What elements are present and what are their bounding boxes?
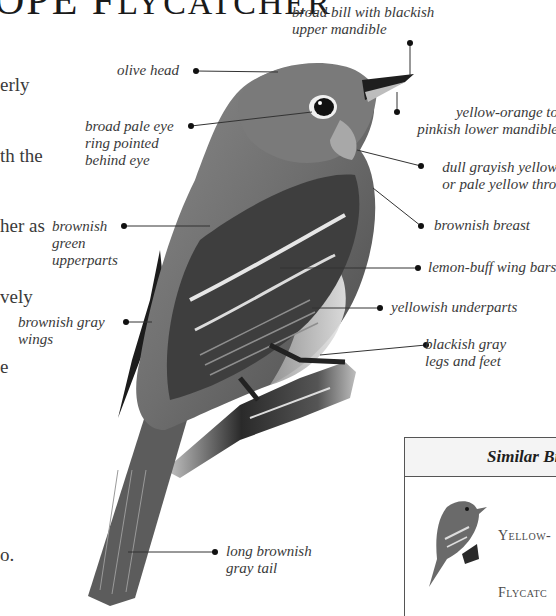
bird-eye bbox=[314, 98, 334, 116]
callout-bill: broad bill with blackish upper mandible bbox=[292, 4, 434, 38]
similar-bird-description: Yellow- Flycatc Shorter t tip; stron ton… bbox=[498, 488, 551, 616]
callout-underparts: yellowish underparts bbox=[391, 299, 517, 316]
similar-birds-panel: Similar Birds Yellow- Flycatc Shorter t … bbox=[404, 437, 556, 616]
callout-legs: blackish gray legs and feet bbox=[425, 336, 506, 370]
callout-lower-mandible: yellow-orange to pinkish lower mandible bbox=[417, 104, 556, 138]
callout-tail: long brownish gray tail bbox=[210, 543, 312, 577]
bird-tail bbox=[88, 400, 190, 606]
callout-breast: brownish breast bbox=[434, 217, 530, 234]
similar-bird-name-line2: Flycatc bbox=[498, 583, 551, 602]
callout-head: olive head bbox=[117, 62, 179, 79]
callout-upperparts: brownish green upperparts bbox=[52, 218, 118, 269]
callout-throat: dull grayish yellow or pale yellow throa… bbox=[442, 159, 556, 193]
callout-wings: brownish gray wings bbox=[18, 314, 105, 348]
similar-birds-heading: Similar Birds bbox=[405, 438, 556, 477]
callout-eye-ring: broad pale eye ring pointed behind eye bbox=[85, 118, 174, 169]
callout-wing-bars: lemon-buff wing bars bbox=[428, 259, 556, 276]
similar-bird-thumbnail bbox=[417, 489, 507, 589]
similar-bird-name-line1: Yellow- bbox=[498, 526, 551, 545]
